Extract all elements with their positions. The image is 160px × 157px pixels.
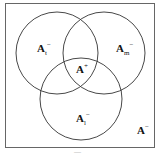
label-set-t: At− bbox=[37, 42, 51, 57]
label-set-l: Al− bbox=[76, 112, 90, 127]
venn-diagram bbox=[0, 0, 160, 157]
caption: — bbox=[74, 148, 81, 156]
label-intersection: A+ bbox=[76, 63, 88, 75]
label-universe: A− bbox=[137, 124, 149, 136]
set-circle-t bbox=[16, 12, 98, 94]
label-set-m: Am− bbox=[116, 42, 133, 57]
